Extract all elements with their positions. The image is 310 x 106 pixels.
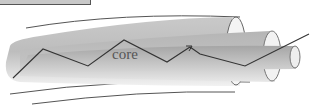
outer-curve-bottom-2 bbox=[32, 92, 235, 104]
core-label: core bbox=[112, 46, 138, 63]
fiber-diagram bbox=[0, 0, 310, 106]
core-end bbox=[290, 46, 300, 68]
